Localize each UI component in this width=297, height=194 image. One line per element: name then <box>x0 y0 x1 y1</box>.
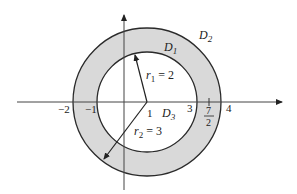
tick-label-seven-half-den: 2 <box>206 117 211 128</box>
tick-label-center: 1 <box>147 107 153 119</box>
label-d3: D3 <box>161 106 176 122</box>
label-r2: r2 = 3 <box>134 124 162 140</box>
annulus-diagram: D2 D1 D3 r1 = 2 r2 = 3 −2 −1 1 3 7 2 4 <box>0 0 297 194</box>
label-r1: r1 = 2 <box>146 68 174 84</box>
tick-label-neg1: −1 <box>85 103 97 115</box>
label-d2: D2 <box>198 28 213 44</box>
tick-label-neg2: −2 <box>58 103 70 115</box>
tick-label-four: 4 <box>226 102 232 114</box>
tick-label-seven-half-num: 7 <box>206 105 211 116</box>
tick-label-three: 3 <box>187 102 193 114</box>
